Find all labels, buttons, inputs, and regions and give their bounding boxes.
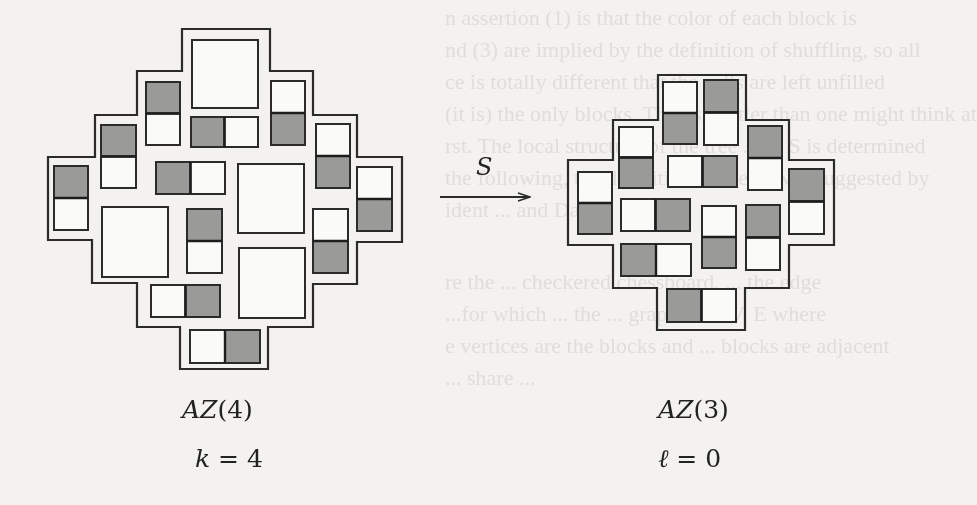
shaded-cell [619,158,653,189]
vertical-domino [187,209,222,273]
shaded-cell [667,289,702,322]
empty-block [192,40,258,108]
caption-name: AZ [182,395,217,424]
shaded-cell [146,82,180,114]
vertical-domino [357,167,392,231]
vertical-domino [702,206,736,268]
empty-block [238,164,304,233]
param-var: k [195,444,210,473]
horizontal-domino [151,285,220,317]
vertical-domino [619,127,653,188]
white-cell [789,202,824,235]
vertical-domino [146,82,180,145]
param-value: = 0 [668,444,721,473]
white-cell [621,199,656,231]
white-cell [746,238,780,271]
vertical-domino [271,81,305,145]
shaded-cell [357,199,392,231]
vertical-domino [101,125,136,188]
caption-arg: (4) [217,395,252,424]
white-cell [271,81,305,113]
white-cell [187,241,222,273]
empty-block [102,207,168,277]
right-parameter: ℓ = 0 [658,444,721,473]
left-caption: AZ(4) [182,395,253,424]
shaded-cell [746,205,780,238]
horizontal-domino [190,330,260,363]
shuffle-label: S [476,153,492,181]
shaded-cell [704,80,738,113]
horizontal-domino [621,199,690,231]
shaded-cell [789,169,824,202]
shaded-cell [663,113,697,144]
vertical-domino [578,172,612,234]
white-cell [357,167,392,199]
domino-tiles [578,80,824,322]
empty-block [239,248,305,318]
shaded-cell [225,330,260,363]
vertical-domino [748,126,782,190]
shaded-cell [578,203,612,234]
shaded-cell [191,117,225,147]
shaded-cell [101,125,136,157]
white-cell [190,330,225,363]
white-cell [748,158,782,190]
param-value: = 4 [210,444,263,473]
white-cell [151,285,186,317]
vertical-domino [663,82,697,144]
caption-name: AZ [658,395,693,424]
horizontal-domino [667,289,736,322]
shaded-cell [54,166,88,198]
aztec-diamond-az3 [568,75,834,330]
aztec-diamond-az4 [48,29,402,369]
left-parameter: k = 4 [195,444,263,473]
horizontal-domino [621,244,691,276]
shaded-cell [271,113,305,145]
white-cell [663,82,697,113]
white-cell [313,209,348,241]
vertical-domino [704,80,738,145]
white-cell [191,162,226,194]
white-cell [702,289,737,322]
horizontal-domino [191,117,258,147]
right-caption: AZ(3) [658,395,729,424]
white-cell [225,117,259,147]
vertical-domino [746,205,780,270]
white-cell [619,127,653,158]
vertical-domino [54,166,88,230]
white-cell [54,198,88,230]
horizontal-domino [668,156,737,187]
white-cell [668,156,703,187]
white-cell [146,114,180,146]
param-var: ℓ [658,444,668,473]
shaded-cell [702,237,736,268]
white-cell [702,206,736,237]
vertical-domino [789,169,824,234]
white-cell [578,172,612,203]
white-cell [101,157,136,189]
shaded-cell [187,209,222,241]
shaded-cell [621,244,656,276]
shaded-cell [156,162,191,194]
shaded-cell [186,285,221,317]
white-cell [316,124,350,156]
shaded-cell [316,156,350,188]
white-cell [656,244,691,276]
vertical-domino [313,209,348,273]
caption-arg: (3) [693,395,728,424]
shaded-cell [748,126,782,158]
shaded-cell [656,199,691,231]
horizontal-domino [156,162,225,194]
white-cell [704,113,738,146]
shaded-cell [703,156,738,187]
shaded-cell [313,241,348,273]
vertical-domino [316,124,350,188]
